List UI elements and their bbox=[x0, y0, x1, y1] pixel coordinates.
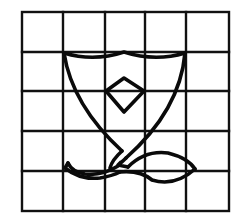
grid-figure bbox=[0, 0, 241, 222]
shield-outline bbox=[64, 52, 185, 158]
right-leaf bbox=[120, 153, 195, 182]
diamond bbox=[106, 78, 144, 112]
shield-right-side bbox=[126, 53, 185, 158]
stem-and-left-leaf bbox=[65, 151, 128, 178]
